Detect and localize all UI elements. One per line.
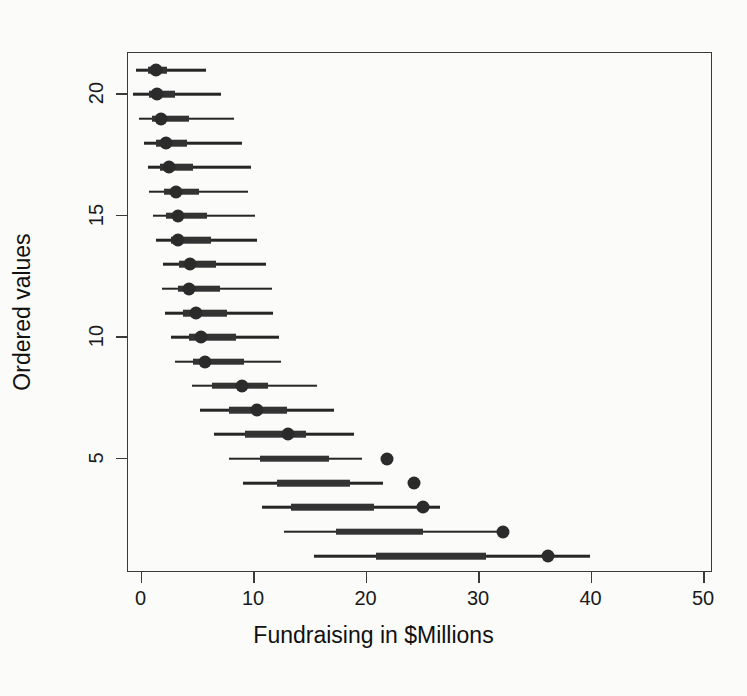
point-estimate [170,185,183,198]
point-estimate [416,501,429,514]
y-axis-tick-label: 10 [85,325,108,347]
point-estimate [154,112,167,125]
y-axis-tick [116,336,127,338]
inner-interval [260,455,330,462]
point-estimate [171,209,184,222]
x-axis-tick [478,572,480,583]
x-axis-tick [591,572,593,583]
x-axis-tick-label: 50 [692,587,714,610]
outer-interval [133,93,222,96]
point-estimate [195,331,208,344]
y-axis-label: Ordered values [9,233,36,390]
y-axis-tick [116,215,127,217]
point-estimate [281,428,294,441]
point-estimate [496,525,509,538]
point-estimate [198,355,211,368]
point-estimate [162,161,175,174]
point-estimate [380,452,393,465]
outer-interval [136,69,206,72]
x-axis-tick-label: 40 [579,587,601,610]
point-estimate [183,258,196,271]
x-axis-tick-label: 30 [467,587,489,610]
point-estimate [150,64,163,77]
x-axis-tick-label: 0 [135,587,146,610]
inner-interval [291,504,374,511]
x-axis-tick [703,572,705,583]
x-axis-tick [366,572,368,583]
figure-container: Ordered values 5101520 01020304050 Fundr… [0,0,747,696]
point-estimate [541,549,554,562]
y-axis-tick-label: 5 [85,452,108,463]
plot-panel [127,52,712,572]
x-axis-tick-label: 10 [242,587,264,610]
y-axis-tick [116,93,127,95]
point-estimate [160,136,173,149]
point-estimate [407,477,420,490]
inner-interval [245,431,306,438]
point-estimate [235,379,248,392]
x-axis-tick [253,572,255,583]
y-axis-tick-label: 20 [85,82,108,104]
y-axis-tick-label: 15 [85,204,108,226]
x-axis-tick [141,572,143,583]
point-estimate [251,404,264,417]
point-estimate [182,282,195,295]
point-estimate [171,234,184,247]
y-axis-tick [116,458,127,460]
x-axis-label: Fundraising in $Millions [0,622,747,649]
plot-area [128,53,711,571]
inner-interval [376,553,486,560]
point-estimate [189,307,202,320]
point-estimate [151,88,164,101]
x-axis-tick-label: 20 [354,587,376,610]
inner-interval [277,480,350,487]
inner-interval [336,528,423,535]
